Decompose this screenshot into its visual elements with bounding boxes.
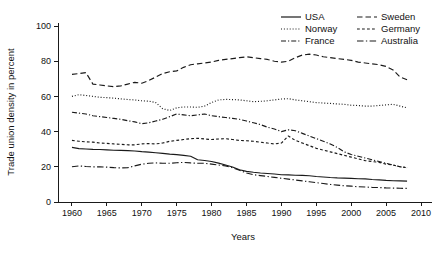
legend-label-france: France (305, 35, 335, 46)
x-axis: 1960196519701975198019851990199520002005… (58, 202, 432, 218)
y-tick-label: 20 (41, 162, 51, 172)
y-tick-label: 60 (41, 92, 51, 102)
series-lines (72, 54, 407, 188)
legend-label-australia: Australia (381, 35, 419, 46)
chart-legend: USASwedenNorwayGermanyFranceAustralia (281, 11, 420, 46)
legend-label-norway: Norway (305, 23, 337, 34)
x-tick-label: 1960 (62, 208, 82, 218)
legend-label-germany: Germany (381, 23, 420, 34)
legend-label-usa: USA (305, 11, 325, 22)
y-tick-label: 80 (41, 56, 51, 66)
x-tick-label: 1965 (97, 208, 117, 218)
x-tick-label: 1990 (271, 208, 291, 218)
x-axis-title: Years (231, 231, 255, 242)
x-tick-label: 1995 (306, 208, 326, 218)
line-chart: 020406080100 196019651970197519801985199… (0, 0, 438, 261)
legend-label-sweden: Sweden (381, 11, 415, 22)
chart-container: 020406080100 196019651970197519801985199… (0, 0, 438, 261)
x-tick-label: 1980 (202, 208, 222, 218)
y-tick-label: 100 (36, 21, 51, 31)
y-tick-label: 0 (46, 197, 51, 207)
x-tick-label: 2000 (341, 208, 361, 218)
series-line-germany (72, 136, 407, 168)
x-tick-label: 1975 (167, 208, 187, 218)
series-line-australia (72, 162, 407, 188)
series-line-france (72, 112, 407, 167)
y-axis-title: Trade union density in percent (5, 48, 16, 176)
x-tick-label: 1985 (236, 208, 256, 218)
x-tick-label: 2005 (376, 208, 396, 218)
x-tick-label: 2010 (411, 208, 431, 218)
y-tick-label: 40 (41, 127, 51, 137)
x-tick-label: 1970 (132, 208, 152, 218)
series-line-sweden (72, 54, 407, 87)
series-line-norway (72, 95, 407, 111)
series-line-usa (72, 147, 407, 181)
y-axis: 020406080100 (36, 21, 58, 207)
